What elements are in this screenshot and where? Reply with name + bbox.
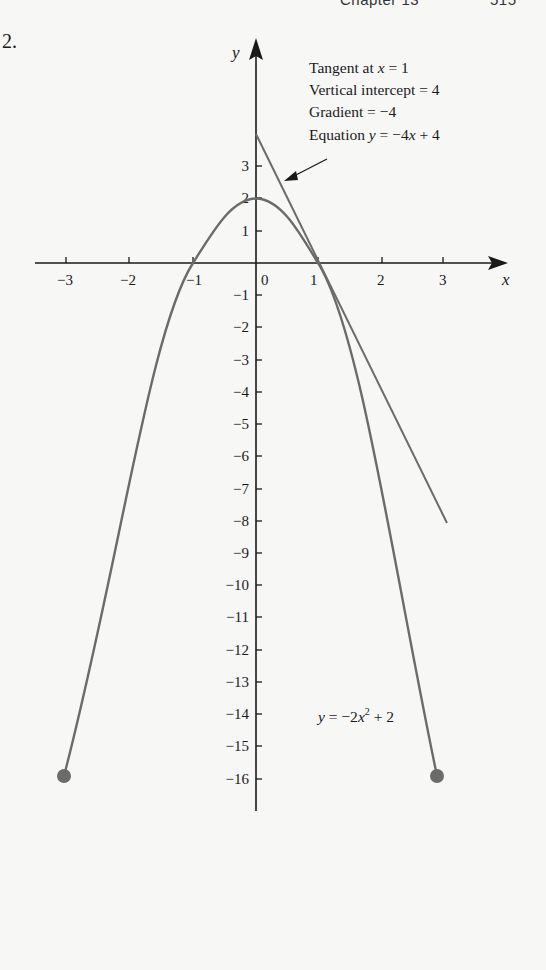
y-axis: y 3 2 1 −1 −2 −3 xyxy=(226,38,263,811)
endpoint-dot-right xyxy=(430,769,444,783)
x-tick-label: 3 xyxy=(439,272,447,288)
y-tick-label: −10 xyxy=(226,577,249,593)
y-tick-label: −13 xyxy=(226,674,249,690)
y-tick-label: −3 xyxy=(233,352,249,368)
y-tick-label: −5 xyxy=(233,416,249,432)
annotation-var: y xyxy=(367,126,376,143)
annotation-var: x xyxy=(377,59,385,76)
curve-label-var: y xyxy=(316,708,325,725)
tangent-annotation: Tangent at x = 1 Vertical intercept = 4 … xyxy=(309,59,440,143)
annotation-arrow xyxy=(284,159,327,181)
x-axis-label: x xyxy=(501,270,510,289)
x-tick-label: 2 xyxy=(377,272,385,288)
y-tick-label: −14 xyxy=(226,706,250,722)
endpoint-dot-left xyxy=(57,769,71,783)
y-tick-label: −12 xyxy=(226,642,249,658)
annotation-text: = 1 xyxy=(385,59,409,76)
annotation-line-1: Tangent at xyxy=(309,59,378,76)
y-tick-label: −6 xyxy=(233,448,249,464)
y-tick-label: −9 xyxy=(233,545,249,561)
y-axis-label: y xyxy=(230,43,240,62)
y-tick-label: −4 xyxy=(233,384,249,400)
y-tick-label: 3 xyxy=(242,158,250,174)
annotation-text: = −4 xyxy=(376,126,409,143)
x-axis: −3 −2 −1 0 1 2 3 x xyxy=(35,256,510,289)
annotation-line-3: Gradient = −4 xyxy=(309,103,396,120)
y-tick-label: 1 xyxy=(242,223,250,239)
annotation-text: + 4 xyxy=(416,126,440,143)
y-tick-label: −1 xyxy=(233,287,249,303)
curve-label-var: x xyxy=(357,708,365,725)
curve-label: y = −2x2 + 2 xyxy=(316,706,394,725)
chart: −3 −2 −1 0 1 2 3 x y xyxy=(0,0,546,970)
y-tick-label: 2 xyxy=(242,190,250,206)
curve-label-text: = −2 xyxy=(325,708,358,725)
x-tick-label: −3 xyxy=(57,272,73,288)
annotation-line-2: Vertical intercept = 4 xyxy=(309,81,440,98)
y-tick-label: −16 xyxy=(226,771,250,787)
arrowhead-icon xyxy=(284,171,298,181)
x-tick-label: 0 xyxy=(261,272,269,288)
annotation-line-4: Equation xyxy=(309,126,369,143)
svg-text:Equation y = −4x + 4: Equation y = −4x + 4 xyxy=(309,126,440,143)
y-tick-label: −15 xyxy=(226,738,249,754)
y-tick-label: −11 xyxy=(226,609,249,625)
y-tick-label: −2 xyxy=(233,319,249,335)
curve-label-text: + 2 xyxy=(370,708,394,725)
y-tick-label: −7 xyxy=(233,481,249,497)
x-tick-label: 1 xyxy=(310,272,318,288)
svg-text:Tangent at x = 1: Tangent at x = 1 xyxy=(309,59,409,76)
x-tick-label: −2 xyxy=(120,272,136,288)
tangent-line xyxy=(256,134,447,523)
annotation-var: x xyxy=(408,126,416,143)
x-tick-label: −1 xyxy=(186,272,202,288)
y-tick-label: −8 xyxy=(233,513,249,529)
